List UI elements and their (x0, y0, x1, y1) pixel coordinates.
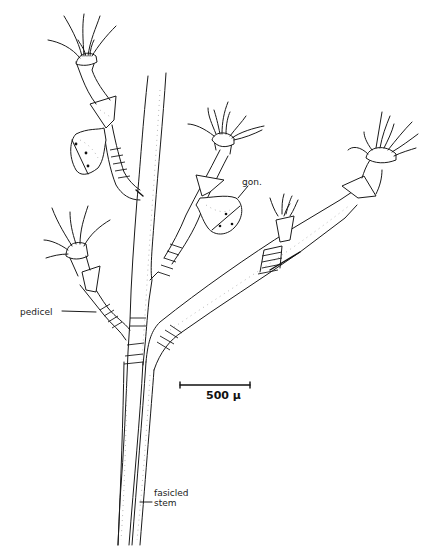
pedicel-leader-line (62, 311, 96, 312)
tentacles (188, 102, 264, 140)
label-stem-line1: fasicled (154, 488, 189, 498)
label-stem-line2: stem (154, 498, 177, 508)
tentacles (48, 14, 116, 58)
scale-bar-label: 500 µ (206, 389, 241, 402)
hydranth-small-right (258, 194, 298, 274)
hydranth-far-right (342, 112, 418, 198)
hydroid-illustration: gon. pedicel fasicled stem 500 µ (0, 0, 441, 556)
hydranth-center (150, 102, 264, 280)
tentacles (270, 194, 298, 216)
label-pedicel: pedicel (20, 307, 52, 317)
scale-bar: 500 µ (180, 382, 250, 402)
pedicel-annulation (110, 148, 130, 178)
gonophore-leader-line (238, 186, 248, 198)
gonophore-top-left (71, 128, 106, 174)
label-gonophore: gon. (242, 177, 262, 187)
hydranth-lower-left (44, 206, 130, 340)
pedicel-annulation (100, 304, 122, 328)
main-stem (118, 73, 166, 545)
hydranth-top-left (48, 14, 143, 200)
gonophore-center (196, 196, 242, 234)
